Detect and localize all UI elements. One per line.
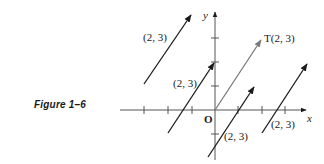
vector-label: (2, 3) [224, 130, 248, 143]
vector-label: (2, 3) [173, 77, 197, 90]
vector-label: (2, 3) [143, 31, 167, 44]
origin-label: O [204, 113, 213, 125]
vector-right: (2, 3) [262, 64, 307, 133]
vector-diagram: x y O (2, 3) (2, 3) T(2, 3) (2, 3) (2, 3… [0, 0, 324, 164]
x-axis-label: x [306, 112, 312, 124]
vector-translation: T(2, 3) [215, 32, 295, 110]
vector-top-left: (2, 3) [143, 15, 191, 84]
y-axis-label: y [202, 9, 208, 21]
vector-label: (2, 3) [271, 118, 295, 131]
vector-label: T(2, 3) [264, 32, 295, 45]
y-axis [211, 12, 219, 160]
